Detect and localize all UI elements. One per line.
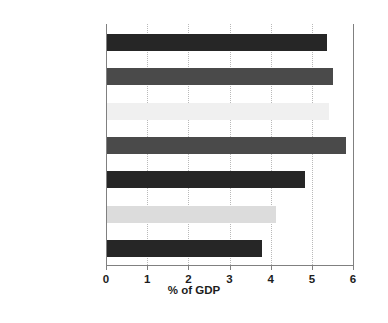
plot-area: CanadaFranceUnited StatesUnited KingdomG…: [106, 24, 354, 266]
bar: [107, 137, 346, 154]
x-tick-mark: [312, 266, 313, 270]
right-spine: [353, 24, 354, 266]
x-tick-mark: [230, 266, 231, 270]
x-tick-mark: [188, 266, 189, 270]
bar: [107, 206, 276, 223]
x-tick-mark: [147, 266, 148, 270]
x-tick-mark: [353, 266, 354, 270]
x-tick-mark: [106, 266, 107, 270]
bar: [107, 103, 329, 120]
x-axis-title: % of GDP: [0, 284, 388, 296]
x-tick-mark: [271, 266, 272, 270]
bar: [107, 240, 262, 257]
bar: [107, 34, 327, 51]
bar-chart: CanadaFranceUnited StatesUnited KingdomG…: [0, 0, 388, 323]
bar: [107, 68, 333, 85]
bar: [107, 171, 305, 188]
